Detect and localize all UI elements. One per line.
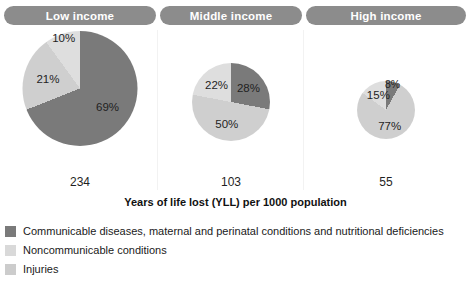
panel-divider — [303, 30, 304, 190]
legend-label: Noncommunicable conditions — [23, 243, 167, 258]
legend: Communicable diseases, maternal and peri… — [5, 224, 471, 281]
pie-wrap-high-income: 8% 77% 15% — [357, 81, 415, 139]
slice-label-noncommunicable: 77% — [378, 120, 401, 132]
legend-swatch-icon — [5, 264, 16, 275]
legend-label: Injuries — [23, 262, 58, 277]
legend-item-noncommunicable: Noncommunicable conditions — [5, 243, 471, 259]
panel-header-middle-income: Middle income — [160, 6, 302, 25]
panel-divider — [157, 30, 158, 190]
pie-chart-low-income: 69% 21% 10% — [23, 31, 138, 146]
legend-swatch-icon — [5, 245, 16, 256]
pie-chart-high-income: 8% 77% 15% — [357, 81, 415, 139]
slice-label-communicable: 69% — [96, 101, 119, 113]
panel-header-high-income: High income — [306, 6, 466, 25]
panel-low-income: 69% 21% 10% 234 — [4, 25, 156, 195]
slice-label-injuries: 10% — [52, 32, 75, 44]
panel-middle-income: 28% 50% 22% 103 — [160, 25, 302, 195]
slice-label-noncommunicable: 50% — [215, 118, 238, 130]
legend-swatch-icon — [5, 226, 16, 237]
legend-item-injuries: Injuries — [5, 262, 471, 278]
panel-total-high-income: 55 — [379, 175, 392, 189]
panel-total-low-income: 234 — [70, 175, 90, 189]
chart-caption: Years of life lost (YLL) per 1000 popula… — [0, 196, 471, 208]
yll-pie-chart-figure: Low income Middle income High income 69%… — [0, 0, 471, 295]
slice-label-noncommunicable: 21% — [36, 73, 59, 85]
pie-chart-middle-income: 28% 50% 22% — [192, 63, 270, 141]
pie-wrap-low-income: 69% 21% 10% — [23, 31, 138, 146]
legend-label: Communicable diseases, maternal and peri… — [23, 224, 444, 239]
panel-total-middle-income: 103 — [221, 175, 241, 189]
panel-headers: Low income Middle income High income — [0, 6, 471, 25]
panel-header-low-income: Low income — [4, 6, 156, 25]
legend-item-communicable: Communicable diseases, maternal and peri… — [5, 224, 471, 240]
panel-header-label: Low income — [46, 10, 114, 22]
panel-header-label: High income — [350, 10, 421, 22]
slice-label-communicable: 28% — [237, 82, 260, 94]
slice-label-injuries: 22% — [205, 79, 228, 91]
panel-high-income: 8% 77% 15% 55 — [306, 25, 466, 195]
slice-label-injuries: 15% — [367, 89, 390, 101]
pie-wrap-middle-income: 28% 50% 22% — [192, 63, 270, 141]
panel-header-label: Middle income — [190, 10, 272, 22]
